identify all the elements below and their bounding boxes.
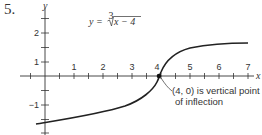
inflection-point [157,74,162,79]
annotation-line-2: of inflection [175,96,223,107]
y-axis-label: y [42,0,48,11]
x-tick-label: 5 [187,62,192,72]
annotation-leader-line [161,78,172,91]
radicand: x − 4 [113,16,135,27]
y-tick-label: −1 [29,100,39,110]
x-tick-label: 1 [71,62,76,72]
annotation-line-1: (4, 0) is vertical point [172,85,260,96]
x-tick-label: 3 [129,62,134,72]
chart-canvas: 1 2 3 4 5 6 7 2 1 −1 y x y = 3 x − 4 (4,… [0,0,262,135]
x-tick-label: 4 [154,62,159,72]
x-tick-label: 7 [245,62,250,72]
x-axis-label: x [255,70,261,81]
y-tick-label: 2 [34,28,39,38]
y-tick-labels: 2 1 −1 [29,28,39,110]
equation-label: y = 3 x − 4 [88,10,141,27]
x-tick-label: 2 [100,62,105,72]
cube-root-curve [36,43,248,124]
y-tick-label: 1 [34,57,39,67]
equation-lhs: y = [88,16,103,27]
x-tick-label: 6 [216,62,221,72]
